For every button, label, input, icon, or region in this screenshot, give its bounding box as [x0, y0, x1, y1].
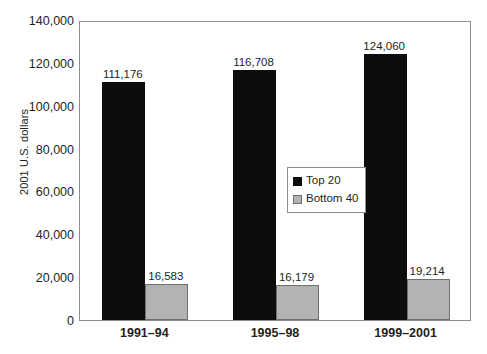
y-axis-tick-label: 120,000 — [2, 58, 74, 71]
x-axis-category-label: 1995–98 — [210, 326, 341, 340]
y-axis-tick-labels: 140,000 120,000 100,000 80,000 60,000 40… — [0, 0, 74, 354]
bar-value-label: 16,583 — [136, 271, 196, 283]
x-axis-labels: 1991–941995–981999–2001 — [79, 326, 471, 350]
bar-value-label: 111,176 — [93, 69, 153, 81]
bar-value-label: 116,708 — [224, 57, 284, 69]
legend-item-label: Bottom 40 — [306, 193, 358, 205]
bar-top-20 — [102, 82, 145, 320]
x-axis-category-label: 1999–2001 — [340, 326, 471, 340]
bar-chart: 2001 U.S. dollars 140,000 120,000 100,00… — [0, 0, 487, 354]
y-axis-tick-label: 60,000 — [2, 186, 74, 199]
bar-bottom-40 — [276, 285, 319, 320]
y-axis-tick-label: 20,000 — [2, 272, 74, 285]
x-axis-category-label: 1991–94 — [79, 326, 210, 340]
bar-top-20 — [364, 54, 407, 320]
bar-value-label: 16,179 — [267, 272, 327, 284]
y-axis-tick-label: 80,000 — [2, 144, 74, 157]
bar-bottom-40 — [407, 279, 450, 320]
legend: Top 20 Bottom 40 — [287, 167, 366, 213]
legend-item-label: Top 20 — [306, 175, 341, 187]
black-swatch-icon — [293, 177, 302, 186]
y-axis-tick-label: 100,000 — [2, 101, 74, 114]
y-axis-tick-label: 40,000 — [2, 229, 74, 242]
gray-swatch-icon — [293, 195, 302, 204]
bar-value-label: 19,214 — [397, 266, 457, 278]
y-axis-tick-label: 0 — [2, 315, 74, 328]
legend-item-bottom-40[interactable]: Bottom 40 — [293, 190, 361, 208]
y-axis-tick-label: 140,000 — [2, 15, 74, 28]
bar-value-label: 124,060 — [354, 41, 414, 53]
bar-bottom-40 — [145, 284, 188, 320]
legend-item-top-20[interactable]: Top 20 — [293, 172, 361, 190]
